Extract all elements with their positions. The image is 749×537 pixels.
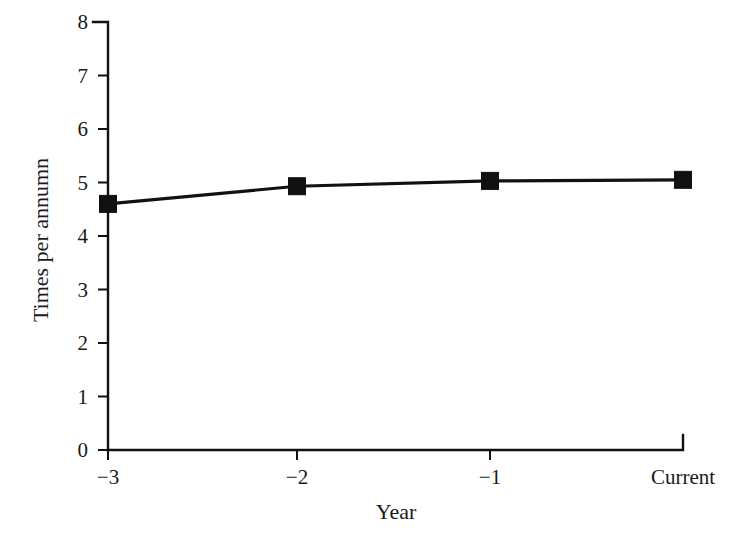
chart-page: 0 1 2 3 4 5 6 7 8 −3 −2 −1 Current Year … — [0, 0, 749, 537]
line-chart: 0 1 2 3 4 5 6 7 8 −3 −2 −1 Current Year … — [0, 0, 749, 537]
x-tick-label: Current — [651, 465, 715, 489]
y-tick-label: 1 — [78, 385, 89, 409]
y-axis-tick-labels: 0 1 2 3 4 5 6 7 8 — [78, 10, 89, 462]
y-tick-label: 0 — [78, 438, 89, 462]
y-tick-label: 4 — [78, 224, 89, 248]
chart-background — [0, 0, 749, 537]
y-tick-label: 2 — [78, 331, 89, 355]
x-tick-label: −2 — [286, 465, 308, 489]
data-point-marker — [100, 195, 117, 212]
y-tick-label: 8 — [78, 10, 89, 34]
x-tick-label: −1 — [479, 465, 501, 489]
y-tick-label: 7 — [78, 64, 89, 88]
x-axis-title: Year — [376, 499, 417, 524]
data-point-marker — [289, 178, 306, 195]
y-tick-label: 5 — [78, 171, 89, 195]
y-tick-label: 3 — [78, 278, 89, 302]
x-tick-label: −3 — [97, 465, 119, 489]
data-point-marker — [675, 171, 692, 188]
data-point-marker — [482, 172, 499, 189]
y-axis-title: Times per annumn — [28, 158, 53, 322]
y-tick-label: 6 — [78, 117, 89, 141]
